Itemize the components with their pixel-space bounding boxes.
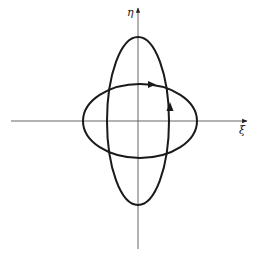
eta-axis-label: η [127,7,134,18]
wide-ellipse-direction-arrow-icon [148,81,156,88]
diagram-canvas: η ξ [0,0,255,257]
diagram-svg [0,0,255,257]
xi-axis-label: ξ [239,125,245,136]
